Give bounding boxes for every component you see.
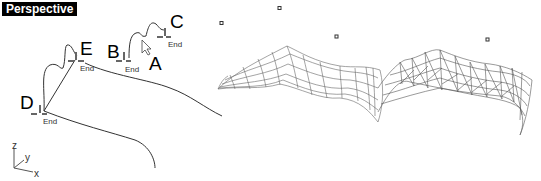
axis-label-x: x [34, 168, 39, 179]
point-label-d: D [20, 92, 34, 113]
quad-mesh-surface[interactable] [218, 46, 383, 122]
snap-label-d: End [43, 117, 57, 126]
snap-label-c: End [168, 40, 182, 49]
control-points[interactable] [220, 7, 489, 42]
axis-label-z: z [12, 140, 17, 151]
curve-d-e-wiggle[interactable] [44, 45, 77, 111]
snap-label-e: End [80, 64, 94, 73]
viewport-title[interactable]: Perspective [2, 2, 77, 16]
triangulated-mesh-surface[interactable] [378, 50, 532, 135]
curve-d-down[interactable] [44, 111, 155, 168]
line-d-e[interactable] [44, 60, 75, 111]
viewport-canvas[interactable]: C End B End A E End D End z y x [0, 0, 541, 181]
axis-label-y: y [25, 152, 30, 163]
point-label-c: C [170, 11, 184, 32]
axis-triad-icon [14, 148, 33, 172]
perspective-viewport[interactable]: C End B End A E End D End z y x Perspect… [0, 0, 541, 181]
snap-label-b: End [125, 65, 139, 74]
point-label-e: E [80, 38, 93, 59]
point-label-b: B [107, 41, 120, 62]
point-label-a: A [149, 53, 162, 74]
